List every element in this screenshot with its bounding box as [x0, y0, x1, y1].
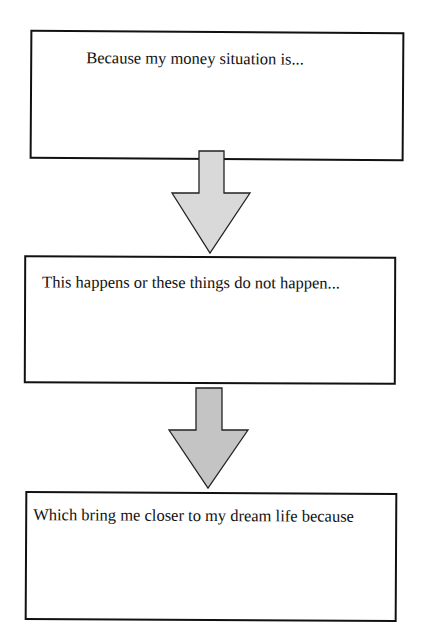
arrow-1-shape	[172, 151, 250, 253]
flow-box-money-situation: Because my money situation is...	[30, 30, 405, 161]
flow-box-label: Because my money situation is...	[86, 50, 304, 68]
flow-box-label: This happens or these things do not happ…	[42, 274, 340, 292]
arrow-2-shape	[169, 388, 248, 488]
cropped-header-fragment	[0, 0, 425, 6]
flow-box-label: Which bring me closer to my dream life b…	[33, 507, 354, 525]
flow-box-dream-life: Which bring me closer to my dream life b…	[25, 491, 398, 622]
flow-box-consequences: This happens or these things do not happ…	[24, 255, 396, 384]
